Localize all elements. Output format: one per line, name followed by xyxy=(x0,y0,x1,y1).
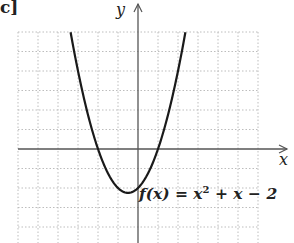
function-exponent: 2 xyxy=(203,184,210,195)
part-label: c] xyxy=(0,0,18,17)
function-rest: + x − 2 xyxy=(210,184,278,203)
function-term-x: x xyxy=(193,184,202,203)
x-axis-label: x xyxy=(279,150,288,169)
graph-figure: c] y x f(x) = x2 + x − 2 xyxy=(0,0,294,243)
function-lhs: f(x) xyxy=(139,184,170,203)
plot-area xyxy=(0,0,294,243)
y-axis-label: y xyxy=(116,0,125,19)
function-eq: = xyxy=(170,184,194,203)
function-label: f(x) = x2 + x − 2 xyxy=(139,184,277,203)
